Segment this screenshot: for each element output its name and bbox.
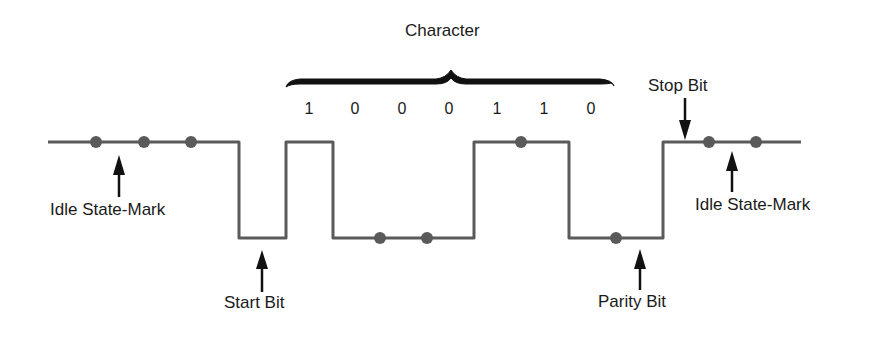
sample-dots <box>90 136 762 244</box>
sample-dot <box>374 232 386 244</box>
idle-state-mark-left-label: Idle State-Mark <box>50 201 165 218</box>
sample-dot <box>138 136 150 148</box>
bit-label: 0 <box>445 101 454 117</box>
stop-bit-label: Stop Bit <box>648 77 708 94</box>
parity-bit-label: Parity Bit <box>598 293 666 310</box>
start-bit-label: Start Bit <box>224 294 284 311</box>
bit-label: 0 <box>398 101 407 117</box>
character-title: Character <box>405 22 480 39</box>
arrow-down-icon <box>679 98 691 140</box>
bit-label: 0 <box>587 101 596 117</box>
sample-dot <box>185 136 197 148</box>
bit-label: 0 <box>351 101 360 117</box>
arrows <box>113 98 738 292</box>
arrow-up-icon <box>256 250 268 292</box>
sample-dot <box>90 136 102 148</box>
character-brace-icon <box>286 70 614 87</box>
waveform-graphic <box>0 0 886 338</box>
sample-dot <box>421 232 433 244</box>
sample-dot <box>610 232 622 244</box>
sample-dot <box>703 136 715 148</box>
signal-waveform <box>48 142 801 238</box>
bit-label: 1 <box>540 101 549 117</box>
arrow-up-icon <box>726 151 738 192</box>
sample-dot <box>750 136 762 148</box>
serial-frame-diagram: Character 1 0 0 0 1 1 0 Idle State-Mark … <box>0 0 886 338</box>
idle-state-mark-right-label: Idle State-Mark <box>695 196 810 213</box>
bit-label: 1 <box>305 101 314 117</box>
bit-label: 1 <box>493 101 502 117</box>
arrow-up-icon <box>113 155 125 197</box>
sample-dot <box>515 136 527 148</box>
arrow-up-icon <box>634 249 646 290</box>
